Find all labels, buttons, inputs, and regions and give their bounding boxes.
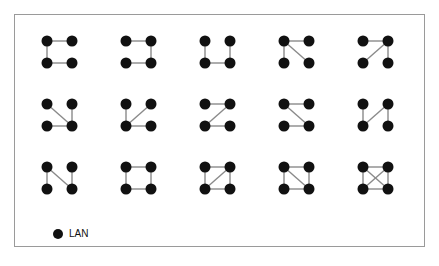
lan-node-icon: [279, 36, 290, 47]
lan-node-icon: [42, 58, 53, 69]
lan-node-icon: [383, 36, 394, 47]
lan-node-icon: [279, 121, 290, 132]
lan-node-icon: [358, 58, 369, 69]
lan-node-icon: [42, 36, 53, 47]
lan-node-icon: [279, 162, 290, 173]
lan-node-icon: [358, 121, 369, 132]
lan-node-icon: [358, 162, 369, 173]
lan-node-icon: [67, 58, 78, 69]
topology-graph-9: [279, 99, 315, 132]
lan-node-icon: [304, 36, 315, 47]
lan-node-icon: [279, 99, 290, 110]
lan-node-icon: [67, 162, 78, 173]
lan-node-icon: [358, 99, 369, 110]
lan-node-icon: [121, 58, 132, 69]
lan-node-icon: [146, 184, 157, 195]
lan-node-icon: [304, 99, 315, 110]
topology-graph-11: [42, 162, 78, 195]
lan-node-icon: [383, 58, 394, 69]
lan-node-icon: [200, 36, 211, 47]
lan-node-icon: [358, 36, 369, 47]
lan-node-icon: [42, 162, 53, 173]
lan-node-icon: [225, 162, 236, 173]
lan-node-icon: [200, 162, 211, 173]
legend: LAN: [53, 228, 88, 239]
lan-node-icon: [200, 121, 211, 132]
topology-graph-12: [121, 162, 157, 195]
legend-label: LAN: [69, 228, 88, 239]
lan-node-icon: [146, 58, 157, 69]
lan-node-icon: [279, 184, 290, 195]
lan-node-icon: [200, 184, 211, 195]
lan-node-icon: [121, 99, 132, 110]
lan-node-icon: [200, 99, 211, 110]
lan-node-icon: [225, 36, 236, 47]
lan-node-icon: [279, 58, 290, 69]
lan-node-icon: [146, 36, 157, 47]
lan-node-icon: [225, 99, 236, 110]
lan-node-icon: [42, 121, 53, 132]
lan-node-icon: [121, 184, 132, 195]
topology-graph-6: [42, 99, 78, 132]
topology-graph-4: [279, 36, 315, 69]
lan-node-icon: [383, 184, 394, 195]
lan-node-icon: [383, 99, 394, 110]
lan-node-icon: [42, 99, 53, 110]
lan-node-icon: [225, 58, 236, 69]
lan-node-icon: [67, 184, 78, 195]
lan-node-icon: [304, 58, 315, 69]
topology-graph-5: [358, 36, 394, 69]
lan-node-icon: [200, 58, 211, 69]
lan-node-icon: [146, 99, 157, 110]
topology-graph-2: [121, 36, 157, 69]
topology-graph-10: [358, 99, 394, 132]
lan-node-icon: [358, 184, 369, 195]
lan-node-icon: [67, 99, 78, 110]
lan-node-icon: [121, 36, 132, 47]
lan-node-icon: [304, 184, 315, 195]
lan-node-icon: [121, 162, 132, 173]
topology-graph-13: [200, 162, 236, 195]
lan-node-icon: [383, 162, 394, 173]
lan-node-icon: [42, 184, 53, 195]
lan-node-icon: [146, 162, 157, 173]
topology-diagram: [0, 0, 439, 266]
topology-graph-7: [121, 99, 157, 132]
topology-graph-8: [200, 99, 236, 132]
lan-node-icon: [121, 121, 132, 132]
topology-graph-3: [200, 36, 236, 69]
topology-graph-15: [358, 162, 394, 195]
lan-node-icon: [67, 36, 78, 47]
lan-node-icon: [225, 184, 236, 195]
lan-node-icon: [304, 162, 315, 173]
topology-graph-14: [279, 162, 315, 195]
lan-node-icon: [304, 121, 315, 132]
lan-node-icon: [225, 121, 236, 132]
lan-node-icon: [383, 121, 394, 132]
topology-graph-1: [42, 36, 78, 69]
lan-node-icon: [53, 229, 63, 239]
lan-node-icon: [67, 121, 78, 132]
lan-node-icon: [146, 121, 157, 132]
